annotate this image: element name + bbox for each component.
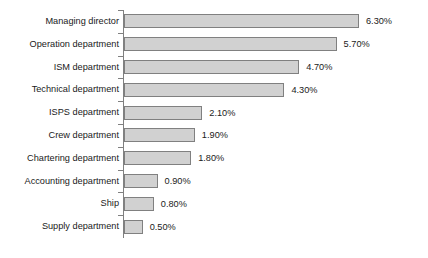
category-label: ISPS department [49,101,119,124]
bar-row: Supply department0.50% [0,215,428,238]
category-label: Chartering department [27,147,119,170]
bar-and-value: 4.70% [124,56,332,79]
value-label: 5.70% [344,39,370,49]
bar-and-value: 0.80% [124,192,187,215]
bar-and-value: 6.30% [124,10,392,33]
bar-row: ISM department4.70% [0,56,428,79]
bar [124,128,195,142]
value-label: 1.90% [202,130,228,140]
bar-row: Managing director6.30% [0,10,428,33]
bar-rows: Managing director6.30%Operation departme… [0,10,428,238]
category-label: Ship [101,192,119,215]
bar-chart: Managing director6.30%Operation departme… [0,0,428,258]
bar-and-value: 0.50% [124,215,176,238]
category-label: Managing director [45,10,119,33]
category-label: Accounting department [25,170,120,193]
category-label: Supply department [42,215,119,238]
bar-row: Chartering department1.80% [0,147,428,170]
bar [124,83,284,97]
value-label: 0.90% [165,176,191,186]
category-label: ISM department [54,56,119,79]
bar-and-value: 2.10% [124,101,235,124]
value-label: 0.50% [150,222,176,232]
bar-and-value: 5.70% [124,33,370,56]
category-label: Crew department [49,124,119,147]
bar [124,14,359,28]
bar [124,151,191,165]
bar-row: Accounting department0.90% [0,170,428,193]
bar [124,220,143,234]
bar-row: ISPS department2.10% [0,101,428,124]
category-label: Technical department [32,78,119,101]
bar-and-value: 4.30% [124,78,317,101]
bar [124,60,299,74]
bar [124,197,154,211]
value-label: 4.70% [306,62,332,72]
bar-and-value: 1.90% [124,124,228,147]
value-label: 6.30% [366,16,392,26]
bar [124,174,158,188]
category-label: Operation department [30,33,119,56]
bar [124,37,337,51]
value-label: 4.30% [291,85,317,95]
plot-area: Managing director6.30%Operation departme… [0,0,428,258]
bar-row: Crew department1.90% [0,124,428,147]
value-label: 0.80% [161,199,187,209]
bar [124,106,202,120]
value-label: 2.10% [209,108,235,118]
bar-and-value: 1.80% [124,147,224,170]
bar-row: Technical department4.30% [0,78,428,101]
value-label: 1.80% [198,153,224,163]
bar-row: Ship0.80% [0,192,428,215]
bar-and-value: 0.90% [124,170,191,193]
bar-row: Operation department5.70% [0,33,428,56]
